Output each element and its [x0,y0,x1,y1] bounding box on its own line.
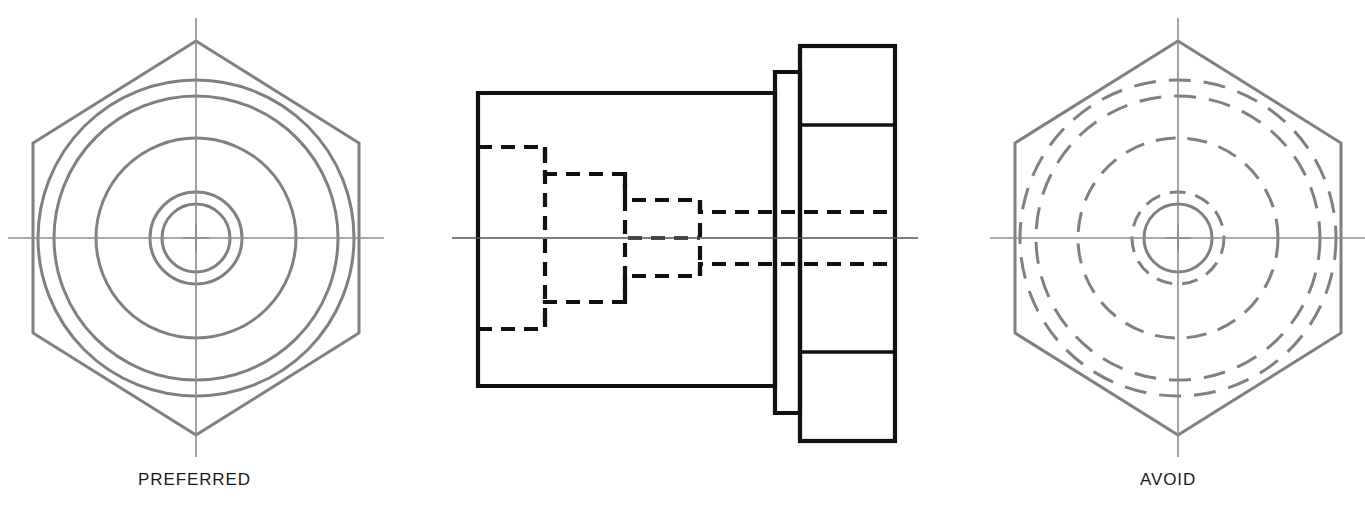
center-mark-avoid [1165,225,1191,251]
hidden-bore-upper [478,147,895,212]
body-outline-visible [478,93,775,386]
avoid-end-view [990,18,1365,457]
hidden-bore-lower [478,264,895,329]
caption-avoid: AVOID [1140,470,1196,490]
flange-outline-visible [800,46,895,441]
caption-preferred: PREFERRED [138,470,251,490]
collar-outline-visible [775,72,800,413]
engineering-drawing-canvas [0,0,1365,519]
front-section-view [452,46,918,441]
center-mark-preferred [183,225,209,251]
preferred-end-view [8,18,384,457]
drawing-sheet: PREFERRED AVOID [0,0,1365,519]
